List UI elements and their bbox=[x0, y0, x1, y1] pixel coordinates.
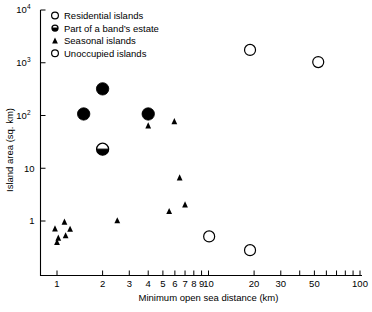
data-point bbox=[245, 245, 256, 256]
legend-label: Unoccupied islands bbox=[64, 48, 147, 59]
data-point bbox=[204, 231, 215, 242]
data-point bbox=[182, 201, 188, 207]
chart-canvas: 110102103104Island area (sq. km)12345678… bbox=[0, 0, 372, 312]
legend-item[interactable]: Residential islands bbox=[52, 10, 144, 21]
data-point bbox=[114, 217, 120, 223]
x-tick-label: 7 bbox=[182, 278, 187, 289]
x-tick-label: 2 bbox=[100, 278, 105, 289]
y-tick-label: 103 bbox=[16, 56, 31, 68]
data-point bbox=[55, 234, 61, 240]
data-point bbox=[67, 226, 73, 232]
x-tick-label: 5 bbox=[160, 278, 165, 289]
data-point bbox=[177, 174, 183, 180]
data-point bbox=[166, 208, 172, 214]
y-tick-label: 102 bbox=[16, 109, 31, 121]
y-tick-label: 10 bbox=[24, 163, 35, 174]
scatter-chart: 110102103104Island area (sq. km)12345678… bbox=[0, 0, 372, 312]
x-tick-label: 20 bbox=[249, 278, 260, 289]
series-seasonal-islands bbox=[52, 118, 188, 245]
legend-label: Part of a band’s estate bbox=[64, 23, 159, 34]
legend-label: Seasonal islands bbox=[64, 35, 136, 46]
data-point bbox=[171, 118, 177, 124]
legend-marker-open-circle bbox=[52, 12, 59, 19]
data-point bbox=[142, 108, 154, 120]
data-point bbox=[145, 122, 151, 128]
series-part-of-a-band-s-estate bbox=[97, 143, 109, 155]
series-filled-circles-occupied bbox=[77, 83, 154, 120]
data-points bbox=[52, 44, 324, 255]
legend-label: Residential islands bbox=[64, 10, 143, 21]
y-axis-ticks: 110102103104Island area (sq. km) bbox=[4, 3, 46, 226]
data-point bbox=[62, 219, 68, 225]
data-point bbox=[245, 44, 256, 55]
legend: Residential islandsPart of a band’s esta… bbox=[52, 10, 159, 59]
legend-item[interactable]: Unoccupied islands bbox=[52, 48, 147, 59]
legend-marker-triangle bbox=[52, 37, 58, 43]
data-point bbox=[52, 225, 58, 231]
y-axis-title: Island area (sq. km) bbox=[4, 108, 15, 192]
legend-item[interactable]: Part of a band’s estate bbox=[52, 23, 159, 34]
x-tick-label: 50 bbox=[309, 278, 320, 289]
x-tick-label: 4 bbox=[146, 278, 151, 289]
series-unoccupied-islands bbox=[204, 44, 324, 255]
data-point bbox=[77, 108, 89, 120]
data-point bbox=[63, 232, 69, 238]
legend-marker-open-circle bbox=[52, 50, 59, 57]
y-tick-label: 1 bbox=[29, 215, 34, 226]
x-tick-label: 3 bbox=[127, 278, 132, 289]
legend-item[interactable]: Seasonal islands bbox=[52, 35, 136, 46]
y-tick-label: 104 bbox=[16, 3, 31, 15]
x-tick-label: 30 bbox=[275, 278, 286, 289]
x-tick-label: 1 bbox=[54, 278, 59, 289]
x-tick-label: 6 bbox=[172, 278, 177, 289]
x-axis-title: Minimum open sea distance (km) bbox=[139, 292, 279, 303]
data-point bbox=[96, 83, 108, 95]
data-point bbox=[313, 57, 324, 68]
x-tick-label: 100 bbox=[352, 278, 368, 289]
x-tick-label: 10 bbox=[203, 278, 214, 289]
x-tick-label: 8 bbox=[191, 278, 196, 289]
